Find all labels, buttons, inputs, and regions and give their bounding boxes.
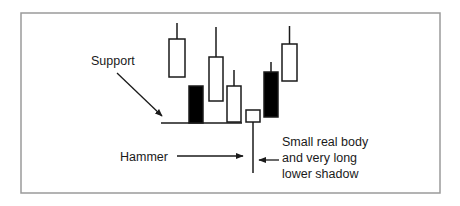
candle-body [227,86,241,122]
candlestick-diagram [0,0,460,206]
candle-body [282,44,297,81]
hammer-description: Small real body and very long lower shad… [282,134,368,182]
support-label: Support [91,53,135,69]
candle-2 [189,86,203,123]
candle-body [209,57,223,101]
hammer-label: Hammer [120,149,168,165]
description-line-3: lower shadow [282,166,368,182]
candle-body [246,110,260,122]
candle-body [264,72,278,117]
candle-body [189,86,203,123]
description-line-2: and very long [282,150,368,166]
description-line-1: Small real body [282,134,368,150]
candle-body [169,39,185,77]
